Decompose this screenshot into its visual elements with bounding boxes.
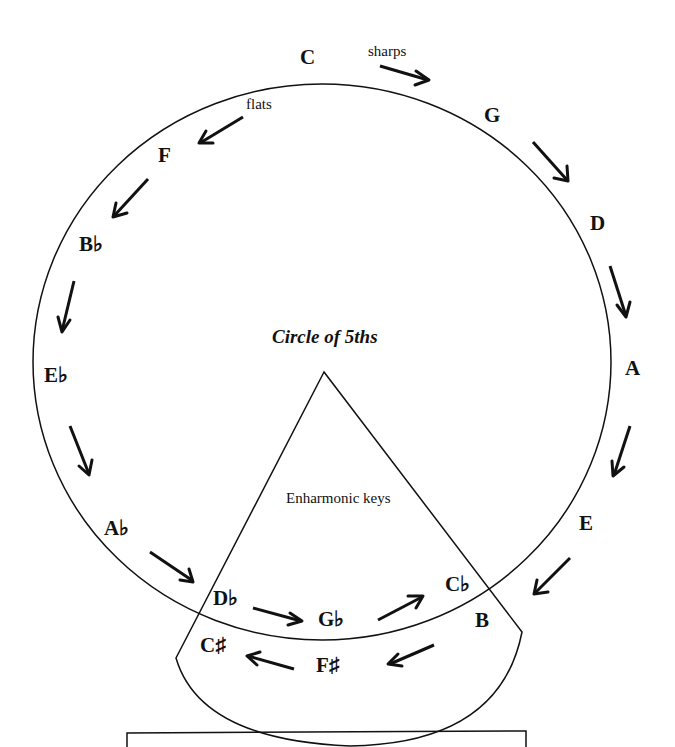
key-dflat: D♭ [213,586,238,610]
arrow-icon [199,117,243,143]
circle-of-fifths-diagram: Circle of 5ths Enharmonic keys sharps fl… [0,0,675,747]
arrow-icon [380,66,429,85]
arrow-icon [612,426,630,476]
key-a: A [625,356,641,380]
arrow-icon [533,142,568,181]
key-csharp: C♯ [200,633,226,657]
flats-label: flats [246,96,272,112]
key-fsharp: F♯ [316,653,340,677]
key-g: G [484,103,500,127]
key-cflat: C♭ [445,572,470,596]
arrow-icon [388,645,434,666]
enharmonic-sector-outline [176,372,522,746]
key-e: E [579,511,593,535]
key-f: F [158,143,171,167]
key-eflat: E♭ [44,363,68,387]
key-gflat: G♭ [318,607,344,631]
arrow-icon [253,608,302,625]
arrow-icon [70,426,92,475]
key-bflat: B♭ [79,232,103,256]
circle-outline [33,84,611,640]
key-aflat: A♭ [104,516,129,540]
arrow-icon [247,652,294,669]
diagram-title: Circle of 5ths [272,326,378,347]
arrow-icon [534,558,570,594]
arrow-icon [58,281,74,332]
key-b: B [475,608,489,632]
key-c: C [300,45,315,69]
arrow-icon [150,552,193,582]
sharps-label: sharps [368,43,406,59]
key-d: D [590,211,605,235]
arrow-icon [378,596,423,620]
arrow-icon [113,179,148,217]
enharmonic-label: Enharmonic keys [286,490,391,506]
arrow-icon [610,266,630,317]
